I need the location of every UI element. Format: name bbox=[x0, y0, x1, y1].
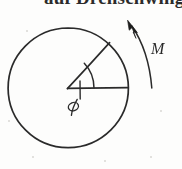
horizontal-radius bbox=[68, 88, 129, 89]
inclined-radius bbox=[67, 43, 109, 89]
angle-arc bbox=[84, 63, 94, 88]
figure-canvas: auf Drehschwing bbox=[0, 0, 182, 169]
angle-symbol-phi bbox=[67, 99, 80, 115]
mechanics-diagram: M bbox=[0, 0, 182, 169]
moment-arrowhead-icon bbox=[128, 20, 138, 38]
moment-label: M bbox=[150, 40, 166, 57]
